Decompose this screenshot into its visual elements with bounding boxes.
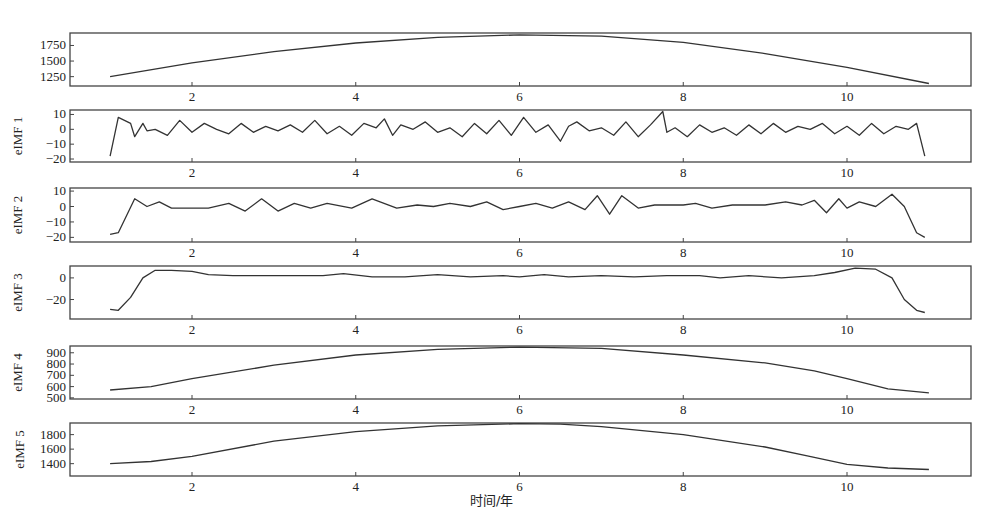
y-axis-label: eIMF 5 [12,430,27,469]
y-tick-label: 900 [47,345,67,360]
panel-frame [70,33,971,86]
x-tick-label: 4 [353,245,360,260]
y-tick-label: −20 [46,229,66,244]
y-tick-label: −10 [46,136,66,151]
x-tick-label: 4 [353,479,360,494]
y-tick-label: −10 [46,214,66,229]
panel-frame [70,346,971,399]
x-tick-label: 10 [841,165,854,180]
x-tick-label: 8 [680,402,687,417]
x-tick-label: 2 [189,402,196,417]
emd-decomposition-figure: 246810125015001750246810−20−10010eIMF 12… [0,0,994,531]
x-tick-label: 6 [516,245,523,260]
series-line [110,424,929,470]
y-tick-label: 1500 [40,53,66,68]
x-tick-label: 8 [680,245,687,260]
series-line [110,194,925,237]
x-tick-label: 10 [841,245,854,260]
y-tick-label: −20 [46,292,66,307]
y-tick-label: 10 [53,183,66,198]
y-axis-label: eIMF 1 [10,117,25,156]
x-tick-label: 8 [680,479,687,494]
series-line [110,347,929,393]
x-tick-label: 4 [353,89,360,104]
panel-frame [70,188,971,242]
panel-frame [70,110,971,162]
x-tick-label: 8 [680,322,687,337]
panel-2: 246810−20−10010eIMF 2 [10,183,971,260]
y-tick-label: 1800 [40,427,66,442]
y-tick-label: 0 [60,121,67,136]
x-tick-label: 2 [189,89,196,104]
x-tick-label: 6 [516,165,523,180]
y-tick-label: 0 [60,199,67,214]
x-tick-label: 4 [353,165,360,180]
x-tick-label: 10 [841,322,854,337]
series-line [110,112,925,157]
x-tick-label: 4 [353,322,360,337]
y-tick-label: 10 [53,106,66,121]
panel-0: 246810125015001750 [40,33,971,104]
y-axis-label: eIMF 4 [10,353,25,392]
series-line [110,35,929,84]
y-tick-label: 1750 [40,37,66,52]
series-line [110,268,925,312]
x-tick-label: 2 [189,245,196,260]
x-tick-label: 6 [516,89,523,104]
x-tick-label: 2 [189,322,196,337]
x-tick-label: 4 [353,402,360,417]
x-tick-label: 2 [189,479,196,494]
x-tick-label: 6 [516,402,523,417]
panel-5: 246810140016001800eIMF 5 [12,423,971,494]
x-tick-label: 2 [189,165,196,180]
y-tick-label: 0 [60,270,67,285]
panel-frame [70,423,971,476]
y-axis-label: eIMF 3 [10,273,25,312]
panel-1: 246810−20−10010eIMF 1 [10,106,971,180]
y-tick-label: 1250 [40,69,66,84]
y-tick-label: −20 [46,151,66,166]
x-tick-label: 8 [680,89,687,104]
x-tick-label: 6 [516,479,523,494]
x-axis-label: 时间/年 [470,490,513,509]
x-tick-label: 10 [841,479,854,494]
y-tick-label: 1600 [40,441,66,456]
x-tick-label: 10 [841,89,854,104]
panel-3: 246810−200eIMF 3 [10,266,971,337]
x-tick-label: 8 [680,165,687,180]
panel-4: 246810500600700800900eIMF 4 [10,345,971,417]
x-tick-label: 10 [841,402,854,417]
x-tick-label: 6 [516,322,523,337]
y-tick-label: 1400 [40,456,66,471]
y-axis-label: eIMF 2 [10,196,25,235]
